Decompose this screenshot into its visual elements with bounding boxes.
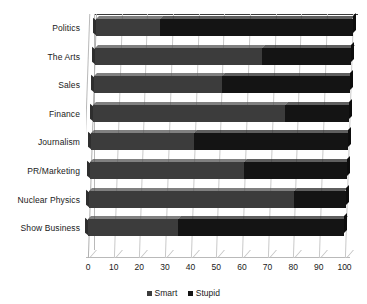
chart-legend: Smart Stupid	[0, 286, 367, 300]
x-axis-tick-100: 100	[332, 262, 358, 273]
plot-top-border	[94, 14, 358, 15]
plot-area	[86, 14, 358, 258]
x-axis-tick-40: 40	[178, 262, 204, 273]
bar-top-face	[95, 45, 265, 48]
x-axis-tick-80: 80	[280, 262, 306, 273]
legend-swatch-smart-icon	[147, 291, 152, 296]
bar-top-face	[91, 130, 197, 133]
bar-end-cap	[348, 127, 351, 147]
bar-end-cap	[350, 70, 353, 90]
y-axis-label-3: Finance	[0, 109, 80, 119]
x-axis-tick-60: 60	[229, 262, 255, 273]
bar-segment-smart	[89, 191, 294, 208]
bar-row	[86, 48, 358, 65]
bar-end-cap	[346, 185, 349, 205]
y-axis-label-1: The Arts	[0, 52, 80, 62]
bar-segment-stupid	[160, 19, 352, 36]
bar-top-face	[262, 45, 355, 48]
bar-top-face	[294, 188, 348, 191]
bar-top-face	[244, 159, 350, 162]
stacked-bar-chart: Politics The Arts Sales Finance Journali…	[0, 0, 367, 304]
x-axis-tick-90: 90	[306, 262, 332, 273]
bar-segment-smart	[94, 76, 222, 93]
bar-end-cap	[347, 156, 350, 176]
bar-end-cap	[349, 99, 352, 119]
y-axis-label-2: Sales	[0, 80, 80, 90]
bar-row	[86, 219, 358, 236]
bar-segment-stupid	[222, 76, 350, 93]
bar-segment-stupid	[294, 191, 345, 208]
bar-top-face	[94, 73, 225, 76]
bar-segment-smart	[88, 219, 178, 236]
bar-top-face	[96, 16, 163, 19]
y-axis-category-labels: Politics The Arts Sales Finance Journali…	[0, 14, 84, 254]
bar-top-face	[160, 16, 355, 19]
bar-segment-stupid	[194, 133, 348, 150]
bar-row	[86, 191, 358, 208]
bar-segment-stupid	[285, 105, 349, 122]
bar-row	[86, 105, 358, 122]
x-axis-tick-10: 10	[101, 262, 127, 273]
legend-swatch-stupid-icon	[188, 291, 193, 296]
bar-top-face	[178, 216, 348, 219]
bar-segment-stupid	[262, 48, 352, 65]
bar-segment-stupid	[178, 219, 345, 236]
bar-row	[86, 162, 358, 179]
y-axis-label-7: Show Business	[0, 223, 80, 233]
bar-top-face	[88, 216, 181, 219]
bar-segment-smart	[93, 105, 285, 122]
bar-row	[86, 19, 358, 36]
y-axis-label-5: PR/Marketing	[0, 166, 80, 176]
bar-end-cap	[353, 13, 356, 33]
y-axis-label-4: Journalism	[0, 137, 80, 147]
bar-segment-smart	[90, 162, 244, 179]
bar-segment-smart	[91, 133, 194, 150]
bar-row	[86, 133, 358, 150]
x-axis-tick-30: 30	[152, 262, 178, 273]
bar-segment-smart	[96, 19, 160, 36]
bar-top-face	[93, 102, 288, 105]
bar-top-face	[89, 188, 297, 191]
y-axis-label-6: Nuclear Physics	[0, 195, 80, 205]
bar-end-cap	[351, 42, 354, 62]
y-axis-label-0: Politics	[0, 23, 80, 33]
bar-row	[86, 76, 358, 93]
bar-segment-smart	[95, 48, 262, 65]
bar-top-face	[194, 130, 351, 133]
bar-top-face	[222, 73, 353, 76]
bar-segment-stupid	[244, 162, 347, 179]
x-axis-tick-labels: 0102030405060708090100	[0, 262, 367, 276]
legend-label-stupid: Stupid	[196, 288, 220, 298]
x-axis-tick-0: 0	[75, 262, 101, 273]
legend-item-smart: Smart	[147, 288, 177, 298]
legend-label-smart: Smart	[155, 288, 178, 298]
bar-top-face	[90, 159, 247, 162]
bar-top-face	[285, 102, 352, 105]
x-axis-tick-50: 50	[203, 262, 229, 273]
x-axis-tick-20: 20	[126, 262, 152, 273]
legend-item-stupid: Stupid	[188, 288, 220, 298]
x-axis-tick-70: 70	[255, 262, 281, 273]
